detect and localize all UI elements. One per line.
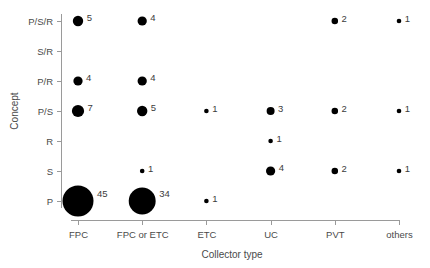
bubble-series — [63, 16, 402, 217]
x-axis-ticks — [79, 221, 400, 226]
bubble-point — [332, 168, 339, 175]
bubble-point — [138, 16, 147, 25]
y-axis-tick-labels: P/S/RS/RP/RP/SRSP — [28, 16, 53, 207]
bubble-value-label: 1 — [405, 13, 410, 24]
bubble-value-label: 5 — [151, 102, 156, 113]
bubble-value-label: 1 — [405, 163, 410, 174]
bubble-value-label: 4 — [150, 12, 155, 23]
bubble-point — [129, 188, 156, 215]
bubble-point — [204, 109, 209, 114]
bubble-point — [267, 107, 275, 115]
bubble-value-label: 1 — [148, 163, 153, 174]
bubble-value-label: 7 — [88, 102, 93, 113]
y-axis: P/S/RS/RP/RP/SRSP Concept — [9, 14, 62, 208]
y-tick-label: P/S — [38, 106, 53, 117]
y-tick-label: R — [46, 136, 53, 147]
bubble-value-label: 1 — [212, 193, 217, 204]
x-tick-label: PVT — [326, 229, 345, 240]
bubble-point — [397, 169, 402, 174]
bubble-value-label: 45 — [97, 188, 108, 199]
chart-canvas: P/S/RS/RP/RP/SRSP Concept FPCFPC or ETCE… — [0, 0, 430, 268]
bubble-value-label: 3 — [278, 103, 283, 114]
bubble-value-label: 5 — [87, 12, 92, 23]
bubble-point — [140, 169, 145, 174]
x-tick-label: others — [386, 229, 413, 240]
bubble-value-label: 2 — [342, 103, 347, 114]
bubble-point — [72, 105, 84, 117]
bubble-point — [332, 18, 339, 25]
x-tick-label: UC — [264, 229, 278, 240]
bubble-value-label: 1 — [405, 103, 410, 114]
x-axis: FPCFPC or ETCETCUCPVTothers Collector ty… — [69, 221, 413, 261]
bubble-point — [73, 76, 82, 85]
bubble-chart-figure: P/S/RS/RP/RP/SRSP Concept FPCFPC or ETCE… — [0, 0, 430, 268]
y-tick-label: P — [47, 196, 53, 207]
bubble-value-label: 4 — [150, 72, 155, 83]
bubble-point — [63, 186, 94, 217]
bubble-value-label: 1 — [276, 133, 281, 144]
bubble-value-labels: 5421447513211142145341 — [86, 12, 410, 204]
bubble-point — [268, 139, 273, 144]
x-axis-tick-labels: FPCFPC or ETCETCUCPVTothers — [69, 229, 413, 240]
y-axis-ticks — [57, 22, 62, 202]
x-tick-label: ETC — [197, 229, 216, 240]
x-axis-title: Collector type — [201, 249, 263, 260]
bubble-value-label: 4 — [86, 72, 91, 83]
bubble-value-label: 1 — [212, 103, 217, 114]
y-tick-label: S/R — [37, 46, 53, 57]
bubble-value-label: 4 — [279, 162, 284, 173]
bubble-point — [138, 76, 147, 85]
bubble-value-label: 2 — [342, 163, 347, 174]
bubble-point — [266, 166, 275, 175]
y-axis-title: Concept — [9, 92, 20, 129]
bubble-point — [397, 109, 402, 114]
y-tick-label: S — [47, 166, 53, 177]
y-tick-label: P/S/R — [28, 16, 53, 27]
bubble-point — [73, 16, 83, 26]
bubble-value-label: 2 — [342, 13, 347, 24]
x-tick-label: FPC — [69, 229, 88, 240]
bubble-point — [397, 19, 402, 24]
bubble-point — [204, 199, 209, 204]
bubble-value-label: 34 — [159, 188, 170, 199]
y-tick-label: P/R — [37, 76, 53, 87]
x-tick-label: FPC or ETC — [117, 229, 169, 240]
bubble-point — [137, 106, 147, 116]
bubble-point — [332, 108, 339, 115]
